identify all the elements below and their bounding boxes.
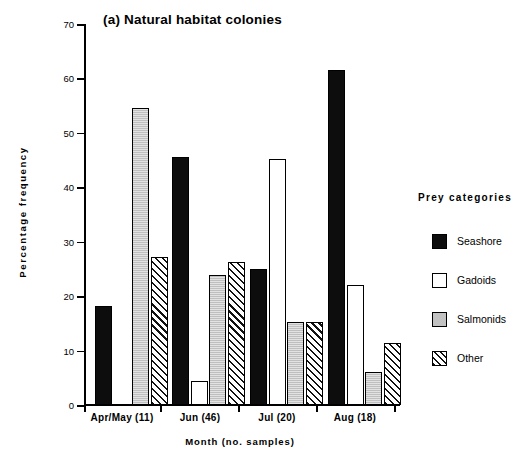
bar-gadoids-jul [269, 159, 286, 405]
y-tick-mark [77, 78, 84, 80]
y-tick-label: 50 [63, 127, 74, 138]
bar-salmonids-apr-may [132, 108, 149, 405]
bars-container [84, 24, 398, 405]
legend-label: Salmonids [457, 313, 506, 325]
bar-other-jul [306, 322, 323, 405]
bar-gadoids-aug [347, 285, 364, 405]
y-tick-label: 30 [63, 236, 74, 247]
y-tick-label: 40 [63, 182, 74, 193]
bar-seashore-jun [172, 157, 189, 405]
x-tick-mark [84, 406, 86, 412]
y-tick-mark [77, 405, 84, 407]
y-tick-label: 20 [63, 291, 74, 302]
legend-label: Gadoids [457, 274, 496, 286]
y-tick-mark [77, 133, 84, 135]
y-tick-mark [77, 296, 84, 298]
legend-label: Seashore [457, 235, 502, 247]
legend-swatch-seashore-icon [432, 234, 447, 249]
bar-salmonids-aug [365, 372, 382, 405]
y-axis-title: Percentage frequency [17, 146, 28, 277]
y-tick-mark [77, 351, 84, 353]
y-tick-label: 10 [63, 345, 74, 356]
y-tick-label: 60 [63, 73, 74, 84]
x-tick-label: Aug (18) [334, 412, 376, 423]
x-tick-mark [394, 406, 396, 412]
bar-seashore-aug [328, 70, 345, 405]
bar-other-aug [384, 343, 401, 405]
x-tick-mark [238, 406, 240, 412]
x-tick-mark [160, 406, 162, 412]
y-tick-mark [77, 187, 84, 189]
x-tick-label: Jul (20) [258, 412, 295, 423]
x-axis-title: Month (no. samples) [185, 436, 294, 447]
legend-swatch-salmonids-icon [432, 312, 447, 327]
legend-swatch-other-icon [432, 351, 447, 366]
bar-seashore-jul [250, 269, 267, 405]
x-tick-label: Apr/May (11) [90, 412, 153, 423]
legend-swatch-gadoids-icon [432, 273, 447, 288]
bar-other-jun [228, 262, 245, 405]
bar-gadoids-jun [191, 381, 208, 405]
y-tick-mark [77, 242, 84, 244]
bar-salmonids-jul [287, 322, 304, 405]
chart-figure: (a) Natural habitat colonies Percentage … [0, 0, 532, 474]
plot-area: 010203040506070 [84, 24, 398, 405]
x-tick-label: Jun (46) [180, 412, 221, 423]
bar-seashore-apr-may [95, 306, 112, 405]
y-tick-label: 0 [69, 400, 74, 411]
y-tick-mark [77, 24, 84, 26]
legend-label: Other [457, 352, 483, 364]
y-tick-label: 70 [63, 19, 74, 30]
bar-salmonids-jun [209, 275, 226, 405]
legend-title: Prey categories [418, 192, 512, 203]
x-tick-mark [316, 406, 318, 412]
bar-other-apr-may [151, 257, 168, 405]
